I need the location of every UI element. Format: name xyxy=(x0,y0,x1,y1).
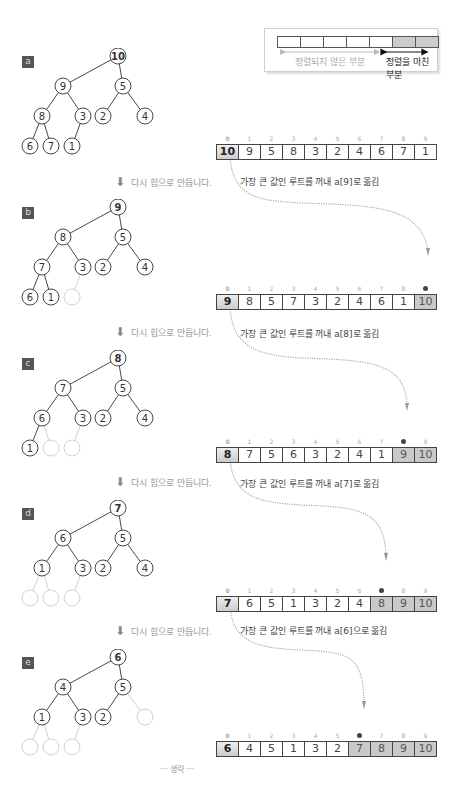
array-index: 9 xyxy=(415,438,436,446)
array-value: 7 xyxy=(290,295,297,308)
array-value: 3 xyxy=(312,295,319,308)
tree-node: 1 xyxy=(43,289,59,305)
array-value: 7 xyxy=(224,597,232,610)
array-cell: 31 xyxy=(282,596,305,612)
down-arrow-icon: ⬇ xyxy=(115,325,125,339)
tree-node: 3 xyxy=(75,259,91,275)
rebuild-heap-text: 다시 힙으로 만듭니다. xyxy=(131,625,212,638)
tree-node: 3 xyxy=(75,108,91,124)
array-value: 5 xyxy=(268,742,275,755)
svg-text:1: 1 xyxy=(69,141,75,152)
array-value: 4 xyxy=(356,448,363,461)
removed-node xyxy=(43,739,59,755)
array-index: 5 xyxy=(327,438,348,446)
array-index: 9 xyxy=(415,135,436,143)
array-cell: 43 xyxy=(304,294,327,310)
tree-node: 9 xyxy=(110,199,126,215)
array-value: 10 xyxy=(220,145,235,158)
array-value: 9 xyxy=(246,145,253,158)
rebuild-heap-label: ⬇다시 힙으로 만듭니다. xyxy=(115,624,212,638)
tree-node: 2 xyxy=(95,259,111,275)
tree-node: 3 xyxy=(75,560,91,576)
move-note: 가장 큰 값인 루트를 꺼내 a[9]로 옮김 xyxy=(240,175,379,188)
sorted-array-cell: 910 xyxy=(414,741,437,757)
tree-node: 8 xyxy=(110,350,126,366)
array-cell: 87 xyxy=(392,144,415,160)
rebuild-heap-text: 다시 힙으로 만듭니다. xyxy=(131,326,212,339)
array-index: 2 xyxy=(261,587,282,595)
array-cell: 64 xyxy=(348,144,371,160)
array-index: 3 xyxy=(283,135,304,143)
array-index: 0 xyxy=(217,135,238,143)
svg-text:3: 3 xyxy=(80,712,86,723)
svg-text:1: 1 xyxy=(48,292,54,303)
tree-node: 5 xyxy=(115,679,131,695)
array-index: 1 xyxy=(239,135,260,143)
array-value: 8 xyxy=(224,448,232,461)
svg-text:8: 8 xyxy=(115,353,122,364)
array-index: 7 xyxy=(371,285,392,293)
array-cell: 43 xyxy=(304,144,327,160)
array-value: 4 xyxy=(356,597,363,610)
array-cell: 81 xyxy=(392,294,415,310)
svg-text:4: 4 xyxy=(142,563,148,574)
array-index: 6 xyxy=(349,285,370,293)
array-index: 0 xyxy=(217,438,238,446)
array-index: 5 xyxy=(327,732,348,740)
svg-text:7: 7 xyxy=(115,503,122,514)
tree-node: 4 xyxy=(137,410,153,426)
array-cell: 91 xyxy=(414,144,437,160)
array-value: 7 xyxy=(400,145,407,158)
svg-text:9: 9 xyxy=(115,202,122,213)
array-value: 5 xyxy=(268,448,275,461)
removed-node xyxy=(43,590,59,606)
array-index: 4 xyxy=(305,135,326,143)
array-value: 6 xyxy=(224,742,232,755)
array-index: 8 xyxy=(393,285,414,293)
array-index: 0 xyxy=(217,587,238,595)
tree-node: 7 xyxy=(110,500,126,516)
array-value: 9 xyxy=(400,742,407,755)
array-index: 1 xyxy=(239,587,260,595)
tree-node: 5 xyxy=(115,78,131,94)
heap-tree-b: 985732461 xyxy=(0,199,200,309)
down-arrow-icon: ⬇ xyxy=(115,624,125,638)
array-index: 3 xyxy=(283,587,304,595)
array-cell: 25 xyxy=(260,144,283,160)
move-note: 가장 큰 값인 루트를 꺼내 a[6]으로 옮김 xyxy=(240,624,387,637)
array-index: 1 xyxy=(239,438,260,446)
array-cell: 18 xyxy=(238,294,261,310)
array-index: 7 xyxy=(371,135,392,143)
array-value: 6 xyxy=(378,295,385,308)
rebuild-heap-text: 다시 힙으로 만듭니다. xyxy=(131,476,212,489)
tree-node: 3 xyxy=(75,410,91,426)
array-value: 3 xyxy=(312,448,319,461)
moved-marker-icon xyxy=(379,588,384,593)
removed-node xyxy=(22,590,38,606)
svg-text:5: 5 xyxy=(120,232,126,243)
array-index: 8 xyxy=(393,135,414,143)
array-value: 6 xyxy=(290,448,297,461)
array-index: 5 xyxy=(327,135,348,143)
down-arrow-icon: ⬇ xyxy=(115,175,125,189)
removed-node xyxy=(137,709,153,725)
sorted-array-cell: 89 xyxy=(392,447,415,463)
svg-text:2: 2 xyxy=(100,712,106,723)
array-value: 4 xyxy=(356,145,363,158)
array-cell: 08 xyxy=(216,447,239,463)
tree-node: 6 xyxy=(22,289,38,305)
array-value: 5 xyxy=(268,597,275,610)
heap-tree-c: 87563241 xyxy=(0,350,200,460)
array-index: 4 xyxy=(305,587,326,595)
tree-node: 4 xyxy=(137,108,153,124)
array-cell: 52 xyxy=(326,447,349,463)
array-value: 10 xyxy=(419,597,433,610)
sorted-array-cell: 910 xyxy=(414,596,437,612)
tree-node: 2 xyxy=(95,560,111,576)
svg-text:6: 6 xyxy=(27,292,33,303)
tree-node: 3 xyxy=(75,709,91,725)
svg-text:3: 3 xyxy=(80,413,86,424)
array-index: 2 xyxy=(261,135,282,143)
array-index: 3 xyxy=(283,285,304,293)
array-value: 10 xyxy=(419,295,433,308)
